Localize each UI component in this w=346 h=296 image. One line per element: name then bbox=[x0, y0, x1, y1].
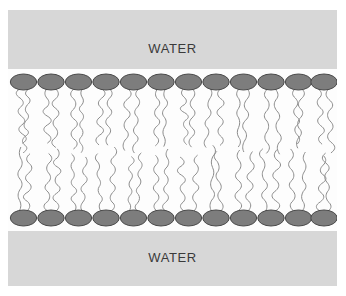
lipid-tails bbox=[316, 153, 331, 211]
lipid-head-group bbox=[175, 74, 201, 90]
lipid-tail bbox=[297, 89, 305, 148]
lower-leaflet bbox=[10, 146, 337, 226]
lipid-tails bbox=[289, 149, 306, 211]
phospholipid-bilayer-figure: WATER WATER bbox=[0, 0, 346, 296]
water-label-bottom: WATER bbox=[8, 250, 337, 265]
lipid-tails bbox=[235, 150, 254, 211]
lipid-tail bbox=[189, 89, 195, 147]
lipid-tails bbox=[18, 147, 32, 211]
lipid-head-group bbox=[311, 210, 337, 226]
lipid-head-group bbox=[230, 74, 256, 90]
lipid-head-group bbox=[175, 210, 201, 226]
lipid-tails bbox=[123, 89, 140, 153]
lipid-tail bbox=[235, 150, 242, 211]
lipid-head-group bbox=[203, 210, 229, 226]
lipid-tail bbox=[44, 154, 52, 211]
lipid-tail bbox=[274, 89, 281, 154]
lipid-head-group bbox=[230, 210, 256, 226]
lipid-tail bbox=[95, 154, 102, 211]
lipid-tail bbox=[79, 89, 83, 152]
lipid-head-group bbox=[93, 74, 119, 90]
lipid-head-group bbox=[65, 210, 91, 226]
lipid-tail bbox=[293, 89, 300, 144]
lipid-tails bbox=[128, 153, 142, 211]
lipid-head-group bbox=[258, 210, 284, 226]
lipid-tails bbox=[317, 89, 335, 153]
lipid-head-group bbox=[120, 74, 146, 90]
lipid-tail bbox=[289, 149, 295, 211]
lipid-tail bbox=[204, 89, 212, 147]
lipid-tail bbox=[272, 150, 281, 211]
lipid-tail bbox=[237, 89, 241, 147]
lipid-tails bbox=[237, 89, 250, 152]
lipid-tails bbox=[264, 89, 281, 154]
lipid-tail bbox=[110, 147, 117, 211]
lipid-tail bbox=[154, 89, 160, 146]
lipid-tail bbox=[264, 89, 269, 153]
lipid-tail bbox=[123, 89, 131, 150]
lipid-head-group bbox=[148, 74, 174, 90]
lipid-tails bbox=[154, 89, 168, 146]
lipid-tails bbox=[44, 149, 61, 211]
lipid-tails bbox=[71, 89, 84, 152]
lipid-tail bbox=[133, 89, 140, 153]
lipid-head-group bbox=[285, 74, 311, 90]
lipid-tail bbox=[317, 89, 324, 144]
lipid-head-group bbox=[38, 74, 64, 90]
lipid-head-group bbox=[10, 210, 36, 226]
water-label-top: WATER bbox=[8, 41, 337, 56]
lipid-head-group bbox=[148, 210, 174, 226]
lipid-head-group bbox=[203, 74, 229, 90]
diagram-panel: WATER WATER bbox=[8, 10, 337, 286]
lipid-tail bbox=[18, 147, 22, 211]
lipid-head-group bbox=[38, 210, 64, 226]
lipid-head-group bbox=[258, 74, 284, 90]
lipid-head-group bbox=[65, 74, 91, 90]
lipid-head-group bbox=[10, 74, 36, 90]
lipid-tails bbox=[180, 89, 195, 147]
lipid-tail bbox=[43, 89, 51, 143]
lipid-tails bbox=[71, 154, 87, 211]
lipid-tail bbox=[177, 157, 185, 211]
lipid-head-group bbox=[311, 74, 337, 90]
lipid-tail bbox=[71, 154, 77, 211]
lipid-tail bbox=[259, 149, 267, 211]
lipid-tail bbox=[128, 157, 134, 211]
lipid-tail bbox=[163, 89, 168, 146]
lipid-tails bbox=[293, 89, 305, 148]
lipid-tail bbox=[246, 152, 254, 211]
lipid-tail bbox=[316, 156, 326, 211]
membrane-svg bbox=[8, 69, 337, 231]
lipid-tail bbox=[135, 153, 142, 211]
lipid-tail bbox=[71, 89, 78, 149]
lipid-tail bbox=[214, 152, 223, 211]
lipid-head-group bbox=[285, 210, 311, 226]
lipid-tails bbox=[210, 146, 223, 211]
lipid-tails bbox=[16, 89, 30, 153]
lipid-tail bbox=[302, 152, 306, 211]
lipid-tails bbox=[204, 89, 224, 147]
lipid-tail bbox=[23, 154, 31, 211]
lipid-tail bbox=[163, 149, 169, 211]
lipid-tail bbox=[193, 155, 199, 211]
lipid-tail bbox=[153, 156, 158, 211]
lipid-head-group bbox=[93, 210, 119, 226]
lipid-tail bbox=[106, 89, 112, 145]
lipid-tail bbox=[81, 157, 87, 211]
lipid-bilayer-membrane bbox=[8, 69, 337, 231]
lipid-tails bbox=[177, 155, 198, 211]
lipid-tails bbox=[259, 149, 280, 211]
lipid-tail bbox=[326, 89, 335, 153]
lipid-tails bbox=[43, 89, 59, 147]
lipid-tail bbox=[52, 89, 59, 147]
lipid-tails bbox=[96, 89, 112, 145]
upper-leaflet bbox=[10, 74, 337, 154]
lipid-tail bbox=[243, 89, 250, 152]
lipid-tails bbox=[153, 149, 168, 211]
lipid-tails bbox=[95, 147, 116, 211]
lipid-tail bbox=[96, 89, 105, 145]
lipid-head-group bbox=[120, 210, 146, 226]
lipid-tail bbox=[180, 89, 188, 144]
lipid-tail bbox=[217, 89, 224, 145]
lipid-tail bbox=[53, 149, 61, 211]
